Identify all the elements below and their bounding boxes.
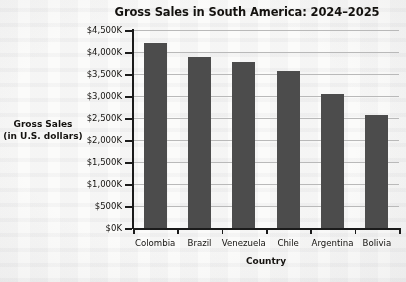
y-tick-label: $500K [78, 202, 122, 211]
x-tick-mark [266, 228, 268, 234]
y-tick-mark [125, 206, 132, 208]
gridline [133, 140, 399, 141]
gridline [133, 206, 399, 207]
y-tick-mark [125, 74, 132, 76]
y-tick-label: $1,000K [78, 180, 122, 189]
gridline [133, 74, 399, 75]
y-tick-mark [125, 228, 132, 230]
x-tick-mark [355, 228, 357, 234]
x-tick-label: Argentina [312, 238, 354, 248]
x-tick-label: Venezuela [222, 238, 266, 248]
y-tick-mark [125, 140, 132, 142]
y-axis-line [132, 29, 134, 229]
x-tick-mark [177, 228, 179, 234]
y-tick-label: $1,500K [78, 158, 122, 167]
x-tick-label: Brazil [188, 238, 212, 248]
y-tick-mark [125, 162, 132, 164]
x-tick-mark [399, 228, 401, 234]
bar-chart: Gross Sales in South America: 2024–2025 … [0, 0, 406, 282]
bar [144, 43, 167, 228]
y-axis-title-line-2: (in U.S. dollars) [0, 130, 86, 142]
y-tick-label: $4,000K [78, 48, 122, 57]
gridline [133, 118, 399, 119]
gridline [133, 30, 399, 31]
y-tick-label: $3,000K [78, 92, 122, 101]
y-tick-mark [125, 184, 132, 186]
y-tick-label: $0K [78, 224, 122, 233]
y-tick-mark [125, 52, 132, 54]
bar [232, 62, 255, 228]
x-tick-label: Bolivia [362, 238, 391, 248]
chart-title: Gross Sales in South America: 2024–2025 [88, 5, 406, 19]
x-axis-title: Country [133, 256, 399, 266]
y-tick-label: $2,000K [78, 136, 122, 145]
gridline [133, 184, 399, 185]
y-tick-label: $2,500K [78, 114, 122, 123]
x-tick-label: Colombia [135, 238, 175, 248]
gridline [133, 52, 399, 53]
y-axis-title: Gross Sales (in U.S. dollars) [0, 118, 86, 142]
y-tick-label: $3,500K [78, 70, 122, 79]
bar [277, 71, 300, 228]
gridline [133, 162, 399, 163]
x-tick-mark [310, 228, 312, 234]
y-tick-mark [125, 118, 132, 120]
bar [365, 115, 388, 228]
plot-area [133, 30, 399, 228]
y-tick-mark [125, 30, 132, 32]
y-tick-mark [125, 96, 132, 98]
x-tick-label: Chile [277, 238, 299, 248]
gridline [133, 96, 399, 97]
bar [321, 94, 344, 228]
y-tick-label: $4,500K [78, 26, 122, 35]
bar [188, 57, 211, 228]
x-tick-mark [222, 228, 224, 234]
y-axis-title-line-1: Gross Sales [0, 118, 86, 130]
